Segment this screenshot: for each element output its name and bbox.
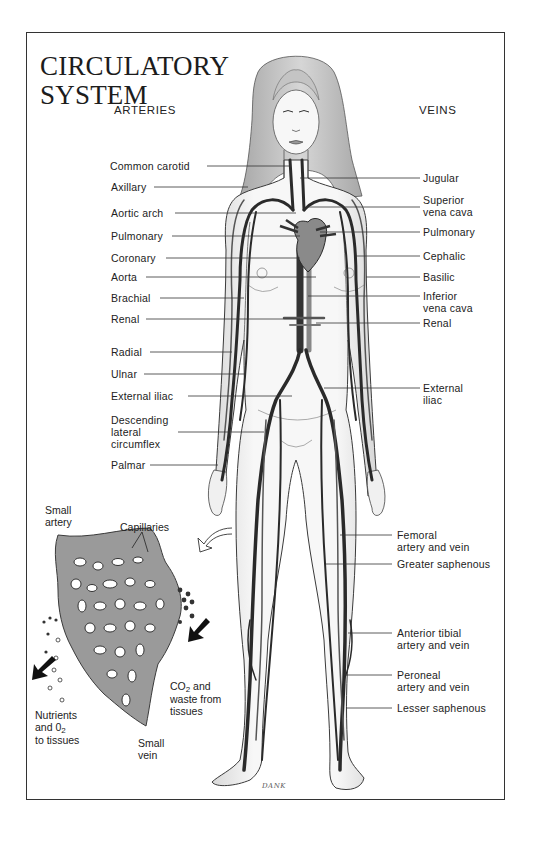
label-small-vein-2: vein <box>138 749 157 761</box>
label-external-iliac-vein-2: iliac <box>423 394 442 406</box>
label-small-artery-2: artery <box>45 516 72 528</box>
label-descending-lateral-circumflex-3: circumflex <box>111 438 160 450</box>
label-common-carotid: Common carotid <box>110 160 190 172</box>
label-descending-lateral-circumflex-1: Descending <box>111 414 168 426</box>
label-greater-saphenous: Greater saphenous <box>397 558 490 570</box>
label-external-iliac-artery: External iliac <box>111 390 173 402</box>
label-aortic-arch: Aortic arch <box>111 207 163 219</box>
label-small-vein-1: Small <box>138 737 164 749</box>
label-small-artery-1: Small <box>45 504 71 516</box>
label-anterior-tibial-1: Anterior tibial <box>397 627 461 639</box>
co2-text: CO <box>170 680 186 692</box>
label-inferior-vena-cava-2: vena cava <box>423 302 473 314</box>
artist-signature: DANK <box>262 782 286 790</box>
label-nutrients-3: to tissues <box>35 734 79 746</box>
label-brachial: Brachial <box>111 292 151 304</box>
label-jugular: Jugular <box>423 172 459 184</box>
label-palmar: Palmar <box>111 459 145 471</box>
label-aorta: Aorta <box>111 271 137 283</box>
label-superior-vena-cava-2: vena cava <box>423 206 473 218</box>
label-pulmonary-artery: Pulmonary <box>111 230 163 242</box>
label-basilic: Basilic <box>423 271 455 283</box>
label-femoral-1: Femoral <box>397 529 437 541</box>
co2-and-text: and <box>190 680 210 692</box>
label-descending-lateral-circumflex-2: lateral <box>111 426 141 438</box>
nutrients-and-o-text: and 0 <box>35 721 61 733</box>
label-inferior-vena-cava-1: Inferior <box>423 290 457 302</box>
body-illustration <box>0 0 536 848</box>
label-renal-vein: Renal <box>423 317 451 329</box>
label-lesser-saphenous: Lesser saphenous <box>397 702 486 714</box>
label-pulmonary-vein: Pulmonary <box>423 226 475 238</box>
torso <box>212 160 379 790</box>
label-capillaries: Capillaries <box>120 521 169 533</box>
label-renal-artery: Renal <box>111 313 139 325</box>
label-cephalic: Cephalic <box>423 250 465 262</box>
label-anterior-tibial-2: artery and vein <box>397 639 469 651</box>
label-ulnar: Ulnar <box>111 368 137 380</box>
label-axillary: Axillary <box>111 181 146 193</box>
label-radial: Radial <box>111 346 142 358</box>
label-femoral-2: artery and vein <box>397 541 469 553</box>
label-co2-waste-3: tissues <box>170 705 203 717</box>
label-external-iliac-vein-1: External <box>423 382 463 394</box>
label-superior-vena-cava-1: Superior <box>423 194 464 206</box>
label-co2-waste-2: waste from <box>170 693 221 705</box>
label-coronary: Coronary <box>111 252 156 264</box>
label-nutrients-1: Nutrients <box>35 709 77 721</box>
label-peroneal-2: artery and vein <box>397 681 469 693</box>
label-peroneal-1: Peroneal <box>397 669 441 681</box>
face <box>273 90 319 154</box>
